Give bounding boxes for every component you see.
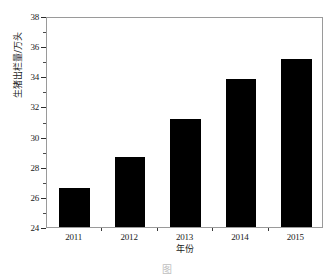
bar bbox=[170, 119, 200, 228]
x-tick-label: 2015 bbox=[287, 231, 304, 243]
bar bbox=[226, 79, 256, 227]
bar bbox=[281, 59, 311, 227]
y-tick-label: 36 bbox=[30, 43, 39, 52]
y-tick-label: 32 bbox=[30, 103, 39, 112]
x-axis-labels: 20112012201320142015 bbox=[46, 231, 323, 245]
figure-caption: 图 bbox=[0, 264, 334, 276]
plot-area bbox=[47, 18, 322, 227]
y-tick-label: 26 bbox=[30, 193, 39, 202]
x-tick-label: 2014 bbox=[231, 231, 248, 243]
y-axis-title: 生猪出栏量/万头 bbox=[13, 0, 23, 130]
x-axis-title: 年份 bbox=[46, 244, 323, 255]
x-tick-label: 2012 bbox=[120, 231, 137, 243]
y-tick-label: 38 bbox=[30, 13, 39, 22]
plot-frame bbox=[46, 17, 323, 228]
x-tick-label: 2013 bbox=[176, 231, 193, 243]
y-tick-label: 24 bbox=[30, 224, 39, 233]
bar bbox=[115, 157, 145, 227]
y-axis: 2426283032343638 bbox=[0, 17, 46, 228]
y-tick-label: 34 bbox=[30, 73, 39, 82]
bar bbox=[59, 188, 89, 227]
x-tick-label: 2011 bbox=[65, 231, 82, 243]
y-tick-label: 28 bbox=[30, 163, 39, 172]
y-tick-label: 30 bbox=[30, 133, 39, 142]
